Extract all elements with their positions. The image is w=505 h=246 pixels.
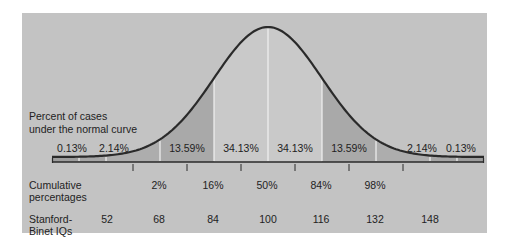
band-percent: 2.14% [99,142,129,154]
cumulative-value: 50% [256,179,277,191]
percent-row-label-2: under the normal curve [29,123,137,135]
iq-value: 116 [313,213,330,225]
iq-value: 100 [259,213,277,225]
cumulative-value: 16% [202,179,223,191]
iq-row-label-2: Binet IQs [29,225,72,237]
sd-dividers [79,28,457,161]
iq-value: 148 [421,213,439,225]
iq-row-label-1: Stanford- [29,213,72,225]
cumulative-row-label-1: Cumulative [29,179,82,191]
iq-value: 68 [153,213,165,225]
iq-value: 52 [101,213,113,225]
cumulative-value: 2% [151,179,166,191]
percent-row-label-1: Percent of cases [29,110,107,122]
axis-ticks [133,164,403,171]
iq-value: 132 [366,213,384,225]
band-percent: 0.13% [57,142,87,154]
cumulative-value: 84% [310,179,331,191]
iq-value: 84 [207,213,219,225]
band-percent: 13.59% [331,142,367,154]
band-percent: 0.13% [446,142,476,154]
band-percent: 13.59% [169,142,205,154]
cumulative-row-label-2: percentages [29,191,87,203]
band-percent: 2.14% [407,142,437,154]
band-percent: 34.13% [277,142,313,154]
band-percent: 34.13% [223,142,259,154]
cumulative-value: 98% [364,179,385,191]
